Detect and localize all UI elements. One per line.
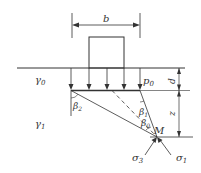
load-arrowheads [69,84,143,90]
gamma1-label: γ1 [35,118,45,131]
foundation-column [89,37,124,68]
point-m-label: M [153,125,165,136]
z-dimension [177,91,181,138]
p0-label: p0 [143,75,154,88]
width-label: b [103,13,109,24]
stress-arrows [145,137,171,155]
bisector-dashed-line [112,91,157,138]
foundation-stress-diagram: b d z [0,0,201,173]
z-label: z [167,111,177,117]
sigma1-label: σ1 [176,152,187,165]
sigma3-label: σ3 [132,152,144,165]
depth-dimension [177,68,181,91]
beta1-arc [140,101,144,102]
beta2-arc [71,94,78,98]
width-dimension: b [72,13,140,38]
gamma0-label: γ0 [35,74,46,87]
depth-label: d [167,78,177,84]
beta0-label: β0 [140,118,150,129]
beta2-label: β2 [72,101,82,112]
